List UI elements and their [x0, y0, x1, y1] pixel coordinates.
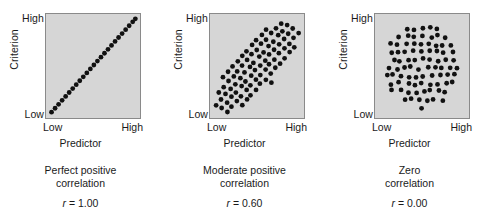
- scatter-plot-zero-correlation: [375, 14, 469, 118]
- x-axis-low-label: Low: [372, 121, 391, 133]
- scatter-plot-perfect-positive: [46, 14, 140, 118]
- x-axis-title: Predictor: [329, 137, 484, 149]
- panel-perfect-positive: High Low Criterion Low High Predictor Pe…: [0, 0, 161, 217]
- y-axis-title: Criterion: [9, 5, 20, 95]
- x-axis-title: Predictor: [0, 137, 161, 149]
- x-axis-high-label: High: [121, 121, 143, 133]
- y-axis-title: Criterion: [338, 5, 349, 95]
- panel-caption-moderate-positive: Moderate positive correlation r = 0.60: [164, 164, 325, 210]
- plot-area-zero-correlation: [374, 13, 470, 119]
- y-axis-low-label: Low: [2, 109, 44, 120]
- correlation-scatterplot-figure: High Low Criterion Low High Predictor Pe…: [0, 0, 484, 217]
- plot-area-perfect-positive: [45, 13, 141, 119]
- x-axis-title: Predictor: [164, 137, 325, 149]
- y-axis-title: Criterion: [173, 5, 184, 95]
- x-axis-high-label: High: [285, 121, 307, 133]
- x-axis-low-label: Low: [43, 121, 62, 133]
- panel-zero-correlation: High Low Criterion Low High Predictor Ze…: [329, 0, 484, 217]
- x-axis-low-label: Low: [207, 121, 226, 133]
- panel-caption-perfect-positive: Perfect positive correlation r = 1.00: [0, 164, 161, 210]
- x-axis-labels: Low High: [374, 121, 470, 134]
- scatter-plot-moderate-positive: [210, 14, 304, 118]
- panel-caption-zero-correlation: Zero correlation r = 0.00: [329, 164, 484, 210]
- y-axis-low-label: Low: [166, 109, 208, 120]
- r-number: = 0.60: [230, 197, 262, 209]
- y-axis-low-label: Low: [331, 109, 373, 120]
- caption-line-2: correlation: [0, 177, 161, 190]
- plot-area-moderate-positive: [209, 13, 305, 119]
- correlation-value: r = 1.00: [0, 197, 161, 210]
- x-axis-labels: Low High: [45, 121, 141, 134]
- caption-line-1: Perfect positive: [0, 164, 161, 177]
- caption-line-1: Moderate positive: [164, 164, 325, 177]
- caption-line-1: Zero: [329, 164, 484, 177]
- panel-moderate-positive: High Low Criterion Low High Predictor Mo…: [164, 0, 325, 217]
- x-axis-labels: Low High: [209, 121, 305, 134]
- correlation-value: r = 0.60: [164, 197, 325, 210]
- r-number: = 0.00: [395, 197, 427, 209]
- x-axis-high-label: High: [450, 121, 472, 133]
- caption-line-2: correlation: [329, 177, 484, 190]
- r-number: = 1.00: [66, 197, 98, 209]
- correlation-value: r = 0.00: [329, 197, 484, 210]
- caption-line-2: correlation: [164, 177, 325, 190]
